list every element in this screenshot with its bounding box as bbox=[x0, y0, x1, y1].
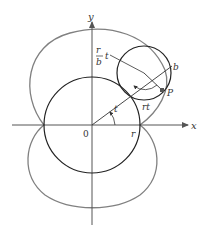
fixed-radius-label: r bbox=[131, 129, 136, 139]
point-p-marker bbox=[160, 88, 164, 92]
arc-rt-label: rt bbox=[142, 102, 150, 112]
epicycloid-diagram: y x 0 r t r b t b P rt bbox=[0, 0, 205, 236]
y-axis-label: y bbox=[87, 11, 94, 22]
rolling-radius-label: b bbox=[173, 62, 179, 72]
center-line bbox=[92, 66, 172, 125]
x-axis-label: x bbox=[191, 120, 197, 131]
fraction-denominator: b bbox=[96, 57, 102, 67]
fraction-numerator: r bbox=[96, 45, 101, 55]
fraction-t-label: t bbox=[105, 51, 109, 61]
origin-label: 0 bbox=[83, 129, 89, 139]
diagram-canvas: y x 0 r t r b t b P rt bbox=[0, 0, 205, 236]
angle-t-label: t bbox=[114, 104, 118, 114]
point-p-label: P bbox=[166, 88, 174, 98]
leader-line bbox=[110, 55, 144, 73]
